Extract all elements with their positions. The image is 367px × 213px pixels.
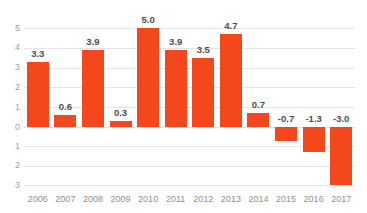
bar-value-label: 0.6 [45,102,85,112]
bar[interactable] [303,127,325,152]
bar[interactable] [192,58,214,127]
y-axis-tick-label: 5 [2,24,20,33]
y-axis-tick-label: 3 [2,63,20,72]
bar-value-label: 3.3 [18,49,58,59]
plot-area: 3.30.63.90.35.03.93.54.70.7-0.7-1.3-3.0 [24,14,355,186]
gridline [24,68,355,69]
y-axis-tick-label: 2 [2,83,20,92]
y-axis-tick-label: 1 [2,142,20,151]
bar[interactable] [27,62,49,127]
bar-chart: 3.30.63.90.35.03.93.54.70.7-0.7-1.3-3.0 … [0,0,367,213]
bar-value-label: 5.0 [128,15,168,25]
bar-value-label: 3.9 [73,37,113,47]
y-axis-tick-label: 1 [2,103,20,112]
gridline [24,87,355,88]
bar-value-label: 0.7 [238,100,278,110]
gridline [24,28,355,29]
bar[interactable] [165,50,187,127]
x-axis-tick-label: 2017 [321,195,361,204]
bar[interactable] [54,115,76,127]
bar[interactable] [220,34,242,127]
bar[interactable] [330,127,352,185]
bar[interactable] [275,127,297,141]
y-axis-tick-label: 3 [2,181,20,190]
gridline [24,185,355,186]
bar-value-label: -3.0 [321,114,361,124]
bar-value-label: 4.7 [211,21,251,31]
gridline [24,166,355,167]
bar[interactable] [110,121,132,127]
bar-value-label: 0.3 [101,108,141,118]
y-axis-tick-label: 0 [2,123,20,132]
y-axis-tick-label: 4 [2,43,20,52]
y-axis-tick-label: 2 [2,161,20,170]
bar-value-label: 3.5 [183,45,223,55]
